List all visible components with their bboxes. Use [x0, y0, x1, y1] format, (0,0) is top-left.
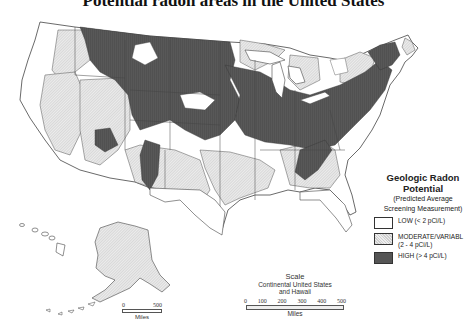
tick-300: 300 [297, 298, 306, 306]
scale-title: Scale [240, 273, 350, 281]
us-radon-map [0, 0, 467, 330]
legend-item-low: LOW (< 2 pCi/L) [374, 217, 467, 229]
ak-scale-line [122, 309, 162, 313]
scale-ticks: 0 100 200 300 400 500 [244, 298, 346, 306]
tick-200: 200 [278, 298, 287, 306]
legend-label-high: HIGH (> 4 pCi/L) [398, 252, 447, 260]
scale-subtitle-2: and Hawaii [240, 288, 350, 296]
scale-unit: Miles [240, 310, 350, 318]
alaska [92, 222, 170, 302]
high-swatch [374, 252, 393, 264]
legend-label-moderate: MODERATE/VARIABL (2 - 4 pCi/L) [398, 233, 467, 248]
tick-0: 0 [244, 298, 247, 306]
tick-500: 500 [337, 298, 346, 306]
legend-item-high: HIGH (> 4 pCi/L) [374, 252, 467, 264]
legend-item-moderate: MODERATE/VARIABL (2 - 4 pCi/L) [374, 233, 467, 248]
ak-scale-unit: Miles [122, 314, 162, 320]
scale-bar: Scale Continental United States and Hawa… [240, 273, 350, 318]
low-swatch [374, 217, 393, 229]
legend-heading-2: Potential [378, 183, 467, 194]
aleutian-islands [46, 302, 95, 315]
ak-tick-500: 500 [153, 302, 162, 308]
hawaii [20, 224, 66, 257]
alaska-scale-bar: 0 500 Miles [122, 302, 162, 320]
scale-subtitle-1: Continental United States [240, 281, 350, 289]
legend-subheading-2: Screening Measurement) [378, 205, 467, 214]
legend-subheading-1: (Predicted Average [378, 195, 467, 204]
tick-400: 400 [317, 298, 326, 306]
legend-heading-1: Geologic Radon [378, 172, 467, 183]
legend-label-low: LOW (< 2 pCi/L) [398, 217, 445, 225]
moderate-swatch [374, 233, 393, 245]
legend: Geologic Radon Potential (Predicted Aver… [378, 172, 467, 264]
tick-100: 100 [258, 298, 267, 306]
ak-tick-0: 0 [122, 302, 125, 308]
